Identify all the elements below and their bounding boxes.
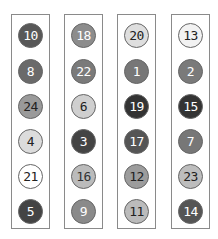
column-3: 20 1 19 17 12 11 [117, 14, 156, 229]
ball[interactable]: 8 [18, 59, 43, 84]
ball[interactable]: 22 [71, 59, 96, 84]
ball[interactable]: 2 [178, 59, 203, 84]
ball[interactable]: 19 [124, 94, 149, 119]
ball[interactable]: 1 [124, 59, 149, 84]
column-2: 18 22 6 3 16 9 [64, 14, 103, 229]
ball[interactable]: 11 [124, 199, 149, 224]
ball[interactable]: 24 [18, 94, 43, 119]
ball[interactable]: 12 [124, 164, 149, 189]
ball[interactable]: 16 [71, 164, 96, 189]
ball[interactable]: 5 [18, 199, 43, 224]
ball[interactable]: 17 [124, 129, 149, 154]
column-4: 13 2 15 7 23 14 [171, 14, 210, 229]
ball[interactable]: 13 [178, 23, 203, 48]
ball[interactable]: 23 [178, 164, 203, 189]
ball[interactable]: 3 [71, 129, 96, 154]
ball[interactable]: 15 [178, 94, 203, 119]
ball[interactable]: 9 [71, 199, 96, 224]
ball[interactable]: 21 [18, 164, 43, 189]
ball[interactable]: 7 [178, 129, 203, 154]
ball[interactable]: 4 [18, 129, 43, 154]
ball[interactable]: 14 [178, 199, 203, 224]
ball[interactable]: 10 [18, 23, 43, 48]
ball[interactable]: 18 [71, 23, 96, 48]
column-1: 10 8 24 4 21 5 [11, 14, 50, 229]
ball[interactable]: 20 [124, 23, 149, 48]
ball[interactable]: 6 [71, 94, 96, 119]
